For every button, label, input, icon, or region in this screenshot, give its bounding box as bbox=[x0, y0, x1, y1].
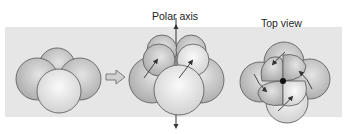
transition-arrow bbox=[106, 70, 125, 84]
polar-axis-down-arrow-icon bbox=[174, 124, 179, 129]
polar-axis-label: Polar axis bbox=[152, 10, 198, 22]
polar-axis-up-arrow-icon bbox=[174, 24, 179, 29]
top-view-label: Top view bbox=[261, 17, 302, 29]
eight-cell-top-view bbox=[240, 42, 330, 123]
four-cell-stage bbox=[16, 48, 101, 113]
center-pole-dot bbox=[280, 78, 286, 84]
eight-cell-side-view bbox=[129, 18, 224, 129]
